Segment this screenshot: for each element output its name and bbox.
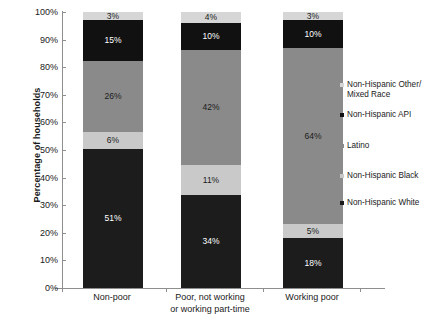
y-axis-tick-label: 50% <box>0 144 58 156</box>
y-axis-tick-label: 20% <box>0 227 58 239</box>
legend-item-label: Non-Hispanic White <box>347 198 442 208</box>
y-axis-tick-label: 60% <box>0 116 58 128</box>
bar-column[interactable]: 3%10%64%5%18% <box>283 12 343 288</box>
bar-segment-value-label: 11% <box>203 176 219 185</box>
bar-segment-value-label: 18% <box>304 259 321 268</box>
y-axis-tick-label: 70% <box>0 89 58 101</box>
legend-item-label: Latino <box>347 141 442 151</box>
bar-segment-value-label: 64% <box>304 132 321 141</box>
legend-color-swatch <box>340 144 344 148</box>
y-axis-tick-label: 100% <box>0 6 58 18</box>
legend-item[interactable]: Non-Hispanic Other/Mixed Race <box>340 80 442 100</box>
stacked-bar-chart: Percentage of households 0%10%20%30%40%5… <box>0 0 442 324</box>
bar-segment[interactable]: 34% <box>181 195 241 288</box>
bar-segment[interactable]: 51% <box>83 149 143 288</box>
bar-segment[interactable]: 15% <box>83 20 143 61</box>
x-axis-category-label: Working poor <box>252 292 372 304</box>
bar-segment-value-label: 34% <box>202 237 219 246</box>
bar-segment[interactable]: 6% <box>83 132 143 148</box>
legend-color-swatch <box>340 113 344 117</box>
bar-segment-value-label: 3% <box>307 12 319 20</box>
bar-segment-value-label: 10% <box>202 32 219 41</box>
plot-area: 3%15%26%6%51%4%10%42%11%34%3%10%64%5%18% <box>62 12 327 288</box>
bar-segment[interactable]: 10% <box>283 20 343 48</box>
bar-segment-value-label: 42% <box>202 103 219 112</box>
bar-column[interactable]: 4%10%42%11%34% <box>181 12 241 288</box>
bar-segment[interactable]: 5% <box>283 224 343 238</box>
x-axis-category-label-line: Working poor <box>252 292 372 304</box>
bar-segment[interactable]: 18% <box>283 238 343 288</box>
bar-segment-value-label: 26% <box>104 92 121 101</box>
bar-segment-value-label: 4% <box>205 13 217 22</box>
legend-item-label: Non-Hispanic API <box>347 110 442 120</box>
x-axis-category-label-line: or working part-time <box>150 304 270 316</box>
bar-segment-value-label: 6% <box>107 136 119 145</box>
bar-segment[interactable]: 3% <box>83 12 143 20</box>
legend-item-label: Non-Hispanic Black <box>347 171 442 181</box>
bar-segment-value-label: 15% <box>104 36 121 45</box>
bar-column[interactable]: 3%15%26%6%51% <box>83 12 143 288</box>
y-axis-tick-label: 40% <box>0 172 58 184</box>
bar-segment-value-label: 5% <box>307 227 319 236</box>
bar-segment-value-label: 10% <box>304 30 321 39</box>
bar-segment[interactable]: 26% <box>83 61 143 132</box>
bar-segment-value-label: 51% <box>104 214 121 223</box>
y-axis-tick-label: 30% <box>0 199 58 211</box>
legend-item[interactable]: Non-Hispanic API <box>340 110 442 120</box>
legend-item[interactable]: Non-Hispanic Black <box>340 171 442 181</box>
y-axis-tick-label: 0% <box>0 282 58 294</box>
y-axis-tick-label: 80% <box>0 61 58 73</box>
bar-segment[interactable]: 64% <box>283 48 343 225</box>
x-axis-line <box>55 288 385 289</box>
bar-segment-value-label: 3% <box>107 12 119 20</box>
legend-color-swatch <box>340 174 344 178</box>
legend-item[interactable]: Non-Hispanic White <box>340 198 442 208</box>
bar-segment[interactable]: 11% <box>181 165 241 195</box>
legend-color-swatch <box>340 83 344 87</box>
y-axis-tick-label: 10% <box>0 254 58 266</box>
bar-segment[interactable]: 42% <box>181 50 241 165</box>
bar-segment[interactable]: 3% <box>283 12 343 20</box>
bar-segment[interactable]: 4% <box>181 12 241 23</box>
legend-item-label: Non-Hispanic Other/ <box>347 80 442 90</box>
legend-color-swatch <box>340 201 344 205</box>
legend-item-label-line2: Mixed Race <box>347 90 442 100</box>
legend-item[interactable]: Latino <box>340 141 442 151</box>
bar-segment[interactable]: 10% <box>181 23 241 50</box>
y-axis-tick-label: 90% <box>0 34 58 46</box>
